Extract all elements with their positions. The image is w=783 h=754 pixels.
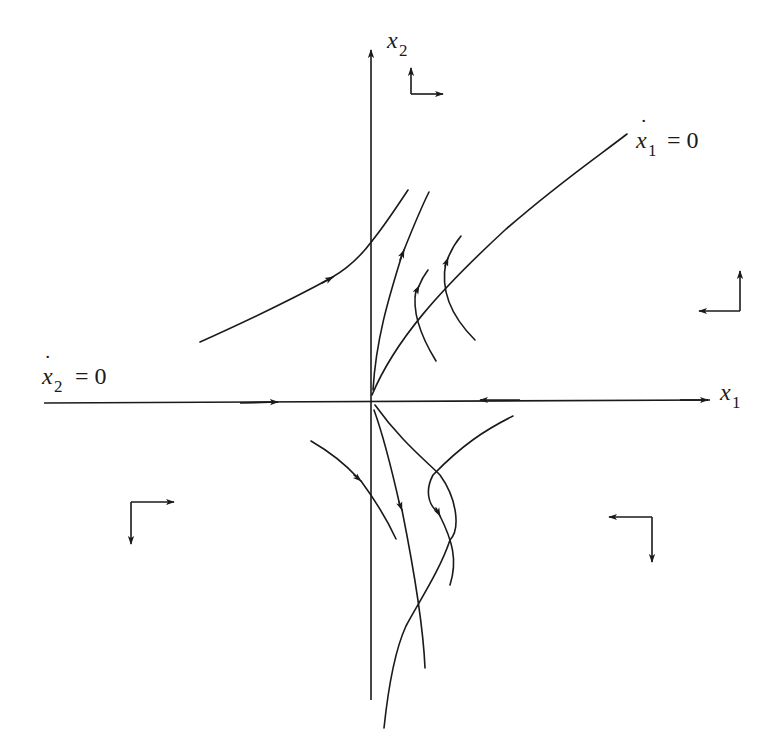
x1-axis	[44, 400, 710, 403]
trajectory-lower-1	[374, 410, 425, 668]
trajectory-upper-1	[373, 192, 429, 390]
svg-text:= 0: = 0	[75, 363, 107, 389]
svg-text:x: x	[41, 363, 53, 389]
trajectory-upper-2	[415, 270, 436, 361]
x1-dot-nullcline-label: ˙ x 1 = 0	[635, 114, 699, 160]
trajectory-upper-3	[444, 236, 475, 340]
x2-dot-nullcline-label: ˙ x 2 = 0	[41, 350, 107, 396]
svg-text:x: x	[635, 127, 647, 153]
trajectory-upper-left	[200, 190, 408, 342]
svg-text:2: 2	[54, 377, 63, 396]
x2-axis-label: x 2	[386, 27, 408, 60]
x1-axis-label: x 1	[719, 379, 741, 412]
x1-label-sub: 1	[732, 393, 741, 412]
svg-text:1: 1	[648, 141, 657, 160]
direction-indicator-lower-right	[609, 517, 652, 562]
direction-indicator-lower-left	[131, 502, 174, 544]
x1-label-var: x	[719, 379, 731, 405]
direction-indicator-upper-middle	[411, 68, 443, 94]
x1-dot-nullcline	[372, 134, 627, 395]
trajectory-lower-3	[428, 416, 513, 585]
trajectory-lower-left	[311, 441, 396, 539]
svg-text:= 0: = 0	[667, 127, 699, 153]
x2-label-var: x	[386, 27, 398, 53]
direction-indicator-right	[699, 271, 740, 311]
phase-portrait-diagram: x 2 x 1 ˙ x 2 = 0 ˙ x 1 = 0	[0, 0, 783, 754]
x2-label-sub: 2	[399, 41, 408, 60]
